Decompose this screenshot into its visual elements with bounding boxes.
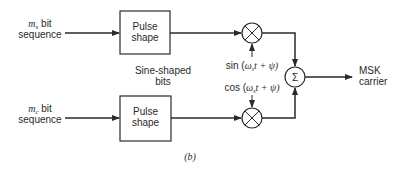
msk-modulator-diagram: ms bit sequence Pulse shape Sine-shaped … [0,0,403,171]
cos-carrier-label: cos (ωst + ψ) [224,82,280,94]
svg-text:Sine-shaped: Sine-shaped [135,65,191,76]
svg-text:Σ: Σ [292,72,298,83]
svg-text:Pulse: Pulse [133,106,158,117]
svg-text:sequence: sequence [18,29,62,40]
lower-input-symbol: m [28,103,35,114]
output-label: MSK carrier [359,65,388,87]
svg-text:Pulse: Pulse [132,21,157,32]
svg-text:shape: shape [131,32,159,43]
upper-pulse-shape-block: Pulse shape [120,11,170,54]
summer-icon: Σ [285,67,305,87]
upper-input-symbol: m [28,18,35,29]
svg-text:bits: bits [155,76,171,87]
lower-pulse-shape-block: Pulse shape [120,96,171,141]
upper-multiplier-icon [242,23,262,43]
svg-text:carrier: carrier [359,76,388,87]
svg-text:MSK: MSK [359,65,381,76]
svg-text:shape: shape [132,117,160,128]
sin-carrier-label: sin (ωst + ψ) [226,60,279,72]
lower-multiplier-icon [242,108,262,128]
sine-shaped-bits-annotation: Sine-shaped bits [135,65,191,87]
lower-input-label: mc bit sequence [18,103,62,125]
figure-caption: (b) [184,151,196,163]
svg-text:sequence: sequence [18,114,62,125]
upper-input-label: ms bit sequence [18,18,62,40]
